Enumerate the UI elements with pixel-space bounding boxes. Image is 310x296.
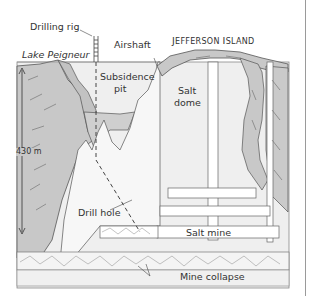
salt-mine-label: Salt mine — [186, 228, 231, 238]
mine-collapse-label: Mine collapse — [180, 272, 245, 282]
drill-hole-label: Drill hole — [78, 208, 120, 218]
lake-label: Lake Peigneur — [22, 50, 90, 60]
right-border — [305, 0, 306, 296]
drilling-rig-label: Drilling rig — [30, 22, 79, 32]
airshaft-label: Airshaft — [114, 40, 151, 50]
island-label: JEFFERSON ISLAND — [172, 36, 255, 46]
bottom-layer — [17, 270, 289, 286]
drilling-rig-icon — [94, 36, 98, 62]
salt-dome-label-2: dome — [174, 98, 201, 108]
depth-label: 430 m — [16, 148, 42, 156]
cross-section-diagram — [0, 0, 310, 296]
subsidence-pit-label: Subsidence — [100, 72, 155, 82]
subsidence-pit-label-2: pit — [114, 84, 126, 94]
salt-dome-label: Salt — [178, 86, 196, 96]
